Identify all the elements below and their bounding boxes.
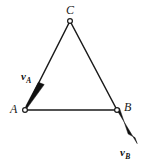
- vertex-label-a: A: [10, 103, 17, 115]
- vector-label-va: vA: [21, 71, 31, 83]
- vertex-marker-A[interactable]: [23, 108, 28, 113]
- vector-label-vb: vB: [120, 147, 130, 159]
- vector-vA-shaft-head: [24, 82, 44, 110]
- edge-CB: [70, 21, 117, 110]
- triangle-diagram-svg: [0, 0, 147, 167]
- vertex-label-b: B: [124, 101, 131, 113]
- triangle-edges: [25, 21, 117, 110]
- vertex-markers: [23, 19, 120, 113]
- vector-label-va-subscript: A: [26, 76, 31, 85]
- vector-vA-arrow: [24, 82, 44, 110]
- vector-label-vb-subscript: B: [125, 152, 130, 161]
- figure-canvas: C A B vA vB: [0, 0, 147, 167]
- vertex-marker-B[interactable]: [115, 108, 120, 113]
- vertex-marker-C[interactable]: [68, 19, 73, 24]
- vertex-label-c: C: [66, 4, 74, 16]
